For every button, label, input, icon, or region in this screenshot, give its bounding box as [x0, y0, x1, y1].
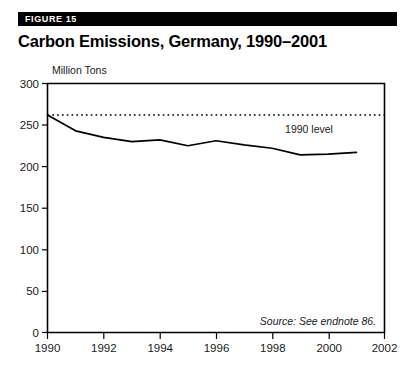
plot-frame	[47, 83, 385, 333]
x-tick-label: 1990	[35, 342, 61, 354]
x-axis-ticks	[48, 333, 385, 339]
x-tick-label: 1996	[204, 342, 230, 354]
x-tick-label: 2002	[372, 342, 398, 354]
reference-line-annotation: 1990 level	[285, 123, 333, 135]
y-tick-label: 100	[20, 244, 39, 256]
x-tick-label: 1998	[260, 342, 286, 354]
line-chart: 300 250 200 150 100 50 0 Million Tons	[0, 0, 415, 373]
y-tick-label: 150	[20, 202, 39, 214]
x-tick-label: 2000	[316, 342, 342, 354]
chart-svg: 300 250 200 150 100 50 0 Million Tons	[0, 0, 415, 373]
y-tick-label: 300	[20, 78, 39, 90]
y-tick-label: 0	[33, 327, 39, 339]
y-axis-ticks	[42, 84, 47, 333]
x-tick-label: 1994	[147, 342, 173, 354]
y-tick-label: 200	[20, 161, 39, 173]
y-tick-label: 50	[26, 285, 39, 297]
y-tick-label: 250	[20, 119, 39, 131]
y-axis-unit-label: Million Tons	[52, 64, 107, 76]
x-tick-label: 1992	[91, 342, 117, 354]
y-axis-labels: 300 250 200 150 100 50 0	[20, 78, 39, 339]
x-axis-labels: 1990 1992 1994 1996 1998 2000 2002	[35, 342, 398, 354]
source-note: Source: See endnote 86.	[260, 315, 376, 327]
figure-card: FIGURE 15 Carbon Emissions, Germany, 199…	[0, 0, 415, 373]
